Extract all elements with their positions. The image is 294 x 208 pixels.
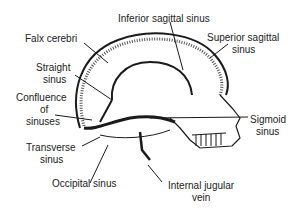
straight-sinus-path — [100, 100, 112, 122]
skull-outer-outline — [76, 33, 228, 128]
label-internal-jugular-line2: vein — [192, 192, 210, 203]
sinus-diagram: Inferior sagittal sinus Falx cerebri Sup… — [0, 0, 294, 208]
label-confluence-line1: Confluence — [16, 92, 67, 103]
label-superior-sagittal-line2: sinus — [232, 44, 255, 55]
label-straight-line2: sinus — [43, 74, 66, 85]
label-straight-line1: Straight — [36, 62, 70, 73]
superior-sagittal-sinus-band — [81, 39, 222, 126]
transverse-sinus-path — [84, 117, 175, 129]
label-sigmoid-line1: Sigmoid — [250, 114, 286, 125]
label-sigmoid-line2: sinus — [256, 126, 279, 137]
leader-lines — [55, 22, 248, 183]
skull-base — [100, 130, 170, 138]
teeth — [192, 133, 226, 146]
label-falx-cerebri: Falx cerebri — [25, 33, 77, 44]
label-transverse-line1: Transverse — [26, 142, 76, 153]
label-inferior-sagittal-sinus: Inferior sagittal sinus — [118, 13, 210, 24]
label-internal-jugular-line1: Internal jugular — [168, 180, 234, 191]
label-confluence-line3: sinuses — [26, 116, 60, 127]
label-superior-sagittal-line1: Superior sagittal — [207, 32, 279, 43]
falx-lower-edge — [112, 62, 192, 100]
label-transverse-line2: sinus — [40, 154, 63, 165]
label-occipital-sinus: Occipital sinus — [52, 178, 116, 189]
label-confluence-line2: of — [40, 104, 48, 115]
facial-skeleton — [170, 95, 240, 148]
